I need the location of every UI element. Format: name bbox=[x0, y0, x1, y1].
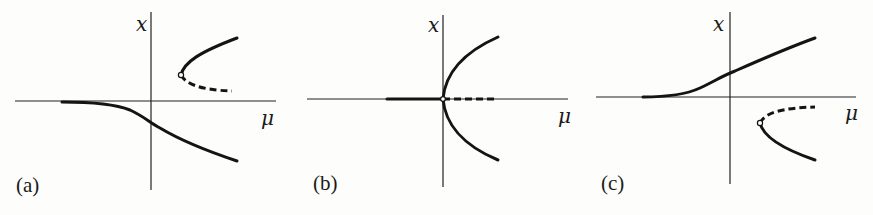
x-axis-label-a: μ bbox=[261, 106, 274, 130]
bifurcation-point-b bbox=[441, 97, 446, 102]
bifurcation-figure: x μ (a) x μ (b) x μ (c) bbox=[0, 0, 873, 215]
panel-label-c: (c) bbox=[601, 171, 624, 195]
stable-branch-a-upper bbox=[181, 38, 237, 75]
panel-c: x μ (c) bbox=[596, 12, 858, 195]
x-axis-label-b: μ bbox=[558, 104, 571, 128]
panel-label-a: (a) bbox=[16, 173, 39, 197]
unstable-branch-a-lower bbox=[181, 75, 232, 91]
stable-branch-a-smooth bbox=[62, 102, 237, 161]
x-axis-label-c: μ bbox=[845, 101, 858, 125]
y-axis-label-c: x bbox=[713, 12, 724, 36]
y-axis-label-a: x bbox=[136, 12, 147, 36]
y-axis-label-b: x bbox=[428, 13, 439, 37]
stable-branch-c-smooth bbox=[643, 38, 815, 97]
stable-branch-b-lower bbox=[443, 99, 498, 160]
panel-a: x μ (a) bbox=[15, 12, 276, 197]
panel-b: x μ (b) bbox=[307, 13, 571, 195]
stable-branch-c-lower bbox=[760, 123, 815, 160]
unstable-branch-c-upper bbox=[760, 107, 815, 123]
panel-label-b: (b) bbox=[313, 171, 338, 195]
bifurcation-point-a bbox=[178, 72, 183, 77]
bifurcation-point-c bbox=[757, 120, 762, 125]
stable-branch-b-upper bbox=[443, 37, 498, 99]
